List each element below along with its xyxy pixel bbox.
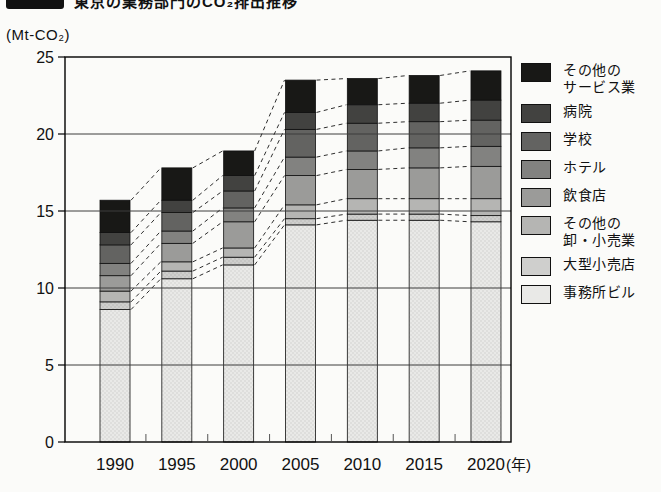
segment-2015-その他の卸・小売業	[409, 199, 439, 214]
legend-label: その他の 卸・小売業	[563, 215, 636, 248]
legend-label: ホテル	[563, 159, 607, 176]
segment-1995-大型小売店	[162, 271, 192, 279]
legend-item-飲食店: 飲食店	[521, 187, 659, 207]
segment-2010-事務所ビル	[347, 220, 377, 442]
stack-connector-line	[131, 271, 161, 302]
x-tick-label: 2020	[467, 455, 505, 474]
segment-2020-学校	[471, 120, 501, 146]
legend-swatch	[521, 160, 551, 179]
chart-legend: その他の サービス業病院学校ホテル飲食店その他の 卸・小売業大型小売店事務所ビル	[521, 62, 659, 304]
segment-1995-飲食店	[162, 243, 192, 261]
stack-connector-line	[193, 265, 223, 279]
bar-2010	[347, 79, 377, 442]
stack-connector-line	[193, 257, 223, 271]
segment-2020-その他の卸・小売業	[471, 199, 501, 216]
segment-2000-事務所ビル	[224, 265, 254, 442]
stack-connector-line	[193, 191, 223, 213]
segment-2005-病院	[285, 112, 315, 129]
stack-connector-line	[193, 248, 223, 262]
stack-connector-line	[316, 169, 346, 175]
segment-1990-病院	[100, 233, 130, 245]
segment-2005-ホテル	[285, 157, 315, 175]
segment-1995-学校	[162, 213, 192, 231]
segment-1990-大型小売店	[100, 302, 130, 310]
stack-connector-line	[378, 103, 408, 105]
segment-2015-事務所ビル	[409, 220, 439, 442]
segment-2010-飲食店	[347, 169, 377, 198]
legend-label: その他の サービス業	[563, 62, 636, 95]
bar-2000	[224, 151, 254, 442]
stack-connector-line	[316, 79, 346, 81]
stack-connector-line	[131, 231, 161, 263]
x-tick-label: 1995	[158, 455, 196, 474]
segment-1995-その他のサービス業	[162, 168, 192, 200]
legend-swatch	[521, 132, 551, 151]
stack-connector-line	[255, 80, 285, 151]
segment-1990-その他の卸・小売業	[100, 291, 130, 302]
x-tick-label: 2000	[220, 455, 258, 474]
segment-2015-学校	[409, 122, 439, 148]
segment-2005-大型小売店	[285, 219, 315, 225]
segment-2010-学校	[347, 123, 377, 151]
stack-connector-line	[440, 166, 470, 168]
segment-1990-ホテル	[100, 263, 130, 275]
segment-2020-飲食店	[471, 166, 501, 198]
segment-2000-大型小売店	[224, 257, 254, 265]
segment-2005-事務所ビル	[285, 225, 315, 442]
segment-1995-その他の卸・小売業	[162, 262, 192, 271]
stack-connector-line	[316, 123, 346, 129]
y-tick-label: 0	[45, 434, 54, 451]
legend-item-学校: 学校	[521, 131, 659, 151]
stack-connector-line	[378, 75, 408, 78]
legend-label: 事務所ビル	[563, 284, 636, 301]
y-tick-label: 15	[36, 203, 54, 220]
segment-2000-飲食店	[224, 222, 254, 248]
stack-connector-line	[131, 168, 161, 200]
stack-connector-line	[378, 122, 408, 124]
stack-connector-line	[255, 225, 285, 265]
bar-2015	[409, 75, 439, 442]
segment-1990-飲食店	[100, 276, 130, 291]
stack-connector-line	[440, 220, 470, 222]
legend-item-ホテル: ホテル	[521, 159, 659, 179]
stack-connector-line	[255, 112, 285, 175]
stack-connector-line	[316, 220, 346, 225]
legend-swatch	[521, 257, 551, 276]
segment-2000-ホテル	[224, 208, 254, 222]
segment-2010-その他の卸・小売業	[347, 199, 377, 214]
segment-2010-その他のサービス業	[347, 79, 377, 105]
stack-connector-line	[378, 148, 408, 151]
stack-connector-line	[440, 100, 470, 103]
segment-1995-事務所ビル	[162, 279, 192, 442]
legend-swatch	[521, 285, 551, 304]
stack-connector-line	[131, 200, 161, 232]
legend-item-事務所ビル: 事務所ビル	[521, 284, 659, 304]
figure-canvas: 東京の業務部門のCO₂排出推移 (Mt-CO₂) 051015202519901…	[0, 0, 661, 492]
bar-1995	[162, 168, 192, 442]
segment-2010-病院	[347, 105, 377, 123]
stack-connector-line	[440, 214, 470, 216]
x-tick-label: 1990	[96, 455, 134, 474]
segment-2010-大型小売店	[347, 214, 377, 220]
y-tick-label: 25	[36, 49, 54, 66]
segment-2015-病院	[409, 103, 439, 121]
stack-connector-line	[440, 71, 470, 76]
legend-label: 大型小売店	[563, 256, 636, 273]
legend-item-その他のサービス業: その他の サービス業	[521, 62, 659, 95]
x-tick-label: 2010	[343, 455, 381, 474]
stack-connector-line	[131, 213, 161, 245]
stack-connector-line	[193, 222, 223, 244]
segment-2000-学校	[224, 191, 254, 208]
segment-2000-病院	[224, 176, 254, 191]
segment-2015-その他のサービス業	[409, 75, 439, 103]
stack-connector-line	[193, 151, 223, 168]
x-tick-label: 2005	[282, 455, 320, 474]
segment-2015-ホテル	[409, 148, 439, 168]
segment-2000-その他のサービス業	[224, 151, 254, 176]
stack-connector-line	[316, 151, 346, 157]
stack-connector-line	[440, 146, 470, 148]
legend-item-病院: 病院	[521, 103, 659, 123]
segment-1995-ホテル	[162, 231, 192, 243]
segment-2020-大型小売店	[471, 216, 501, 222]
segment-2020-事務所ビル	[471, 222, 501, 442]
